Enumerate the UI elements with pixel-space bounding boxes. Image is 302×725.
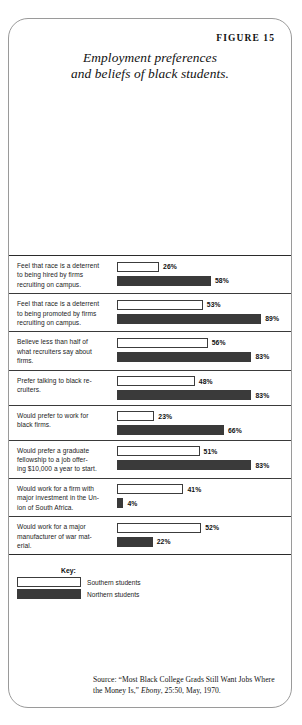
figure-header: FIGURE 15 Employment preferences and bel… <box>9 19 291 82</box>
bar-value-north: 4% <box>127 500 137 507</box>
bar-south: 51% <box>117 446 291 457</box>
row-bars: 48%83% <box>117 375 291 401</box>
legend-item-southern: Southern students <box>9 577 291 587</box>
figure-frame: FIGURE 15 Employment preferences and bel… <box>8 18 292 708</box>
bar-fill-north <box>117 276 211 286</box>
row-label: Would work for a firm withmajor investme… <box>9 483 117 512</box>
row-label-line: to being promoted by firms <box>17 309 113 318</box>
bar-value-south: 23% <box>158 413 172 420</box>
bar-north: 83% <box>117 460 291 471</box>
row-label-line: Prefer talking to black re- <box>17 376 113 385</box>
row-label: Would prefer to work forblack firms. <box>9 410 117 430</box>
bar-value-south: 52% <box>205 524 219 531</box>
bar-fill-north <box>117 390 251 400</box>
bar-north: 22% <box>117 536 291 547</box>
legend-label-southern: Southern students <box>87 579 141 586</box>
bar-south: 52% <box>117 522 291 533</box>
bar-fill-north <box>117 498 123 508</box>
bar-value-north: 22% <box>157 538 171 545</box>
table-row: Would prefer to work forblack firms.23%6… <box>9 406 291 440</box>
source-citation: Source: “Most Black College Grads Still … <box>93 674 279 697</box>
row-bars: 52%22% <box>117 521 291 547</box>
row-label: Feel that race is a deterrentto being pr… <box>9 298 117 327</box>
row-bars: 56%83% <box>117 336 291 362</box>
table-row: Would prefer a graduatefellowship to a j… <box>9 441 291 478</box>
divider <box>9 554 291 555</box>
bar-fill-south <box>117 446 200 456</box>
bar-fill-south <box>117 484 183 494</box>
bar-north: 83% <box>117 351 291 362</box>
legend-item-northern: Northern students <box>9 589 291 599</box>
chart-rows: Feel that race is a deterrentto being hi… <box>9 256 291 555</box>
figure-number: FIGURE 15 <box>23 33 275 43</box>
table-row: Feel that race is a deterrentto being pr… <box>9 294 291 331</box>
row-label-line: Would work for a firm with <box>17 484 113 493</box>
bar-north: 66% <box>117 425 291 436</box>
row-label-line: manufacturer of war mat- <box>17 532 113 541</box>
legend: Key: Southern students Northern students <box>9 567 291 599</box>
row-label-line: recruiting on campus. <box>17 280 113 289</box>
row-label-line: major investment in the Un- <box>17 493 113 502</box>
row-label-line: Believe less than half of <box>17 337 113 346</box>
table-row: Prefer talking to black re-cruiters.48%8… <box>9 371 291 405</box>
bar-fill-south <box>117 338 208 348</box>
bar-fill-south <box>117 523 201 533</box>
row-bars: 23%66% <box>117 410 291 436</box>
bar-fill-north <box>117 460 251 470</box>
row-bars: 51%83% <box>117 445 291 471</box>
bar-value-south: 56% <box>212 339 226 346</box>
bar-north: 4% <box>117 498 291 509</box>
row-label: Would prefer a graduatefellowship to a j… <box>9 445 117 474</box>
row-label-line: fellowship to a job offer- <box>17 455 113 464</box>
bar-south: 56% <box>117 337 291 348</box>
bar-north: 58% <box>117 275 291 286</box>
bar-fill-north <box>117 314 261 324</box>
bar-fill-south <box>117 411 154 421</box>
row-label: Prefer talking to black re-cruiters. <box>9 375 117 395</box>
bar-south: 53% <box>117 299 291 310</box>
row-label-line: recruiting on campus. <box>17 318 113 327</box>
row-label-line: to being hired by firms <box>17 270 113 279</box>
row-label-line: Would prefer a graduate <box>17 446 113 455</box>
bar-value-south: 51% <box>204 448 218 455</box>
bar-fill-south <box>117 376 195 386</box>
row-label-line: Feel that race is a deterrent <box>17 299 113 308</box>
bar-value-north: 89% <box>265 315 279 322</box>
row-label-line: Would prefer to work for <box>17 411 113 420</box>
row-label-line: cruiters. <box>17 385 113 394</box>
legend-label-northern: Northern students <box>87 591 139 598</box>
legend-swatch-northern-icon <box>17 589 81 599</box>
bar-fill-north <box>117 537 153 547</box>
row-label-line: what recruiters say about <box>17 347 113 356</box>
bar-fill-north <box>117 352 251 362</box>
chart-area: Feel that race is a deterrentto being hi… <box>9 255 291 601</box>
row-label: Believe less than half ofwhat recruiters… <box>9 336 117 365</box>
bar-value-south: 41% <box>187 486 201 493</box>
row-label-line: Feel that race is a deterrent <box>17 261 113 270</box>
figure-title-line-2: and beliefs of black students. <box>23 66 277 82</box>
row-label-line: ion of South Africa. <box>17 503 113 512</box>
bar-fill-south <box>117 300 203 310</box>
row-label: Feel that race is a deterrentto being hi… <box>9 260 117 289</box>
bar-south: 41% <box>117 484 291 495</box>
table-row: Would work for a majormanufacturer of wa… <box>9 517 291 554</box>
bar-value-north: 66% <box>228 427 242 434</box>
row-label-line: firms. <box>17 356 113 365</box>
bar-value-south: 53% <box>207 301 221 308</box>
row-bars: 53%89% <box>117 298 291 324</box>
row-label-line: black firms. <box>17 420 113 429</box>
row-bars: 41%4% <box>117 483 291 509</box>
row-label-line: ing $10,000 a year to start. <box>17 464 113 473</box>
bar-north: 83% <box>117 390 291 401</box>
bar-value-north: 83% <box>255 353 269 360</box>
bar-south: 23% <box>117 411 291 422</box>
bar-south: 48% <box>117 376 291 387</box>
bar-value-south: 48% <box>199 378 213 385</box>
bar-value-north: 83% <box>255 392 269 399</box>
row-label-line: Would work for a major <box>17 522 113 531</box>
bar-fill-south <box>117 262 159 272</box>
bar-value-south: 26% <box>163 263 177 270</box>
bar-south: 26% <box>117 261 291 272</box>
table-row: Would work for a firm withmajor investme… <box>9 479 291 516</box>
source-suffix: , 25:50, May, 1970. <box>161 686 221 695</box>
